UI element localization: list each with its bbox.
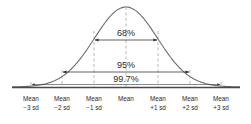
- tick-plus-1sd-line1: Mean: [150, 95, 166, 102]
- tick-minus-3sd-line2: −3 sd: [23, 104, 39, 111]
- tick-plus-3sd-line2: +3 sd: [213, 104, 229, 111]
- tick-minus-3sd-line1: Mean: [23, 95, 39, 102]
- tick-labels: Mean −3 sd Mean −2 sd Mean −1 sd Mean Me…: [23, 95, 229, 111]
- normal-distribution-diagram: 68% 95% 99.7% Mean −3 sd Mean −2 sd Mean…: [0, 0, 251, 124]
- tick-minus-1sd-line2: −1 sd: [86, 104, 102, 111]
- tick-minus-2sd-line2: −2 sd: [54, 104, 70, 111]
- tick-plus-2sd-line1: Mean: [182, 95, 198, 102]
- tick-plus-2sd-line2: +2 sd: [182, 104, 198, 111]
- tick-plus-3sd-line1: Mean: [213, 95, 229, 102]
- label-95-percent: 95%: [117, 60, 135, 70]
- label-68-percent: 68%: [117, 28, 135, 38]
- tick-plus-1sd-line2: +1 sd: [150, 104, 166, 111]
- label-99-7-percent: 99.7%: [113, 74, 139, 84]
- tick-minus-2sd-line1: Mean: [54, 95, 70, 102]
- tick-minus-1sd-line1: Mean: [86, 95, 102, 102]
- tick-mean-line1: Mean: [118, 95, 134, 102]
